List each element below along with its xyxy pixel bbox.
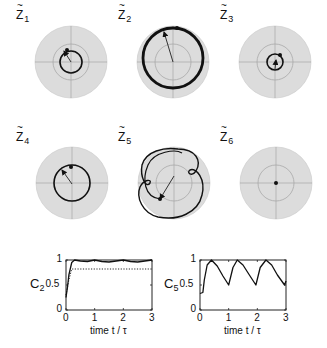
- tilde-mark: ~: [119, 122, 125, 133]
- line-chart-5: [200, 260, 286, 310]
- y-tick-label: 0.5: [46, 278, 60, 289]
- y-axis-index: 5: [173, 283, 178, 293]
- tilde-mark: ~: [17, 122, 23, 133]
- phasor-label-2: ~Z2: [118, 8, 130, 22]
- series-reference: [66, 269, 152, 295]
- phasor-index: 6: [228, 136, 233, 146]
- x-tick-label: 0: [197, 312, 203, 323]
- phasor-diagram-3: [239, 26, 311, 98]
- x-tick-label: 2: [254, 312, 260, 323]
- x-tick-label: 3: [149, 312, 155, 323]
- x-tick-label: 0: [63, 312, 69, 323]
- y-tick-label: 0: [57, 303, 63, 314]
- line-chart-2: [66, 260, 152, 310]
- y-tick-label: 1: [191, 253, 197, 264]
- x-axis-label: time t / τ: [224, 325, 261, 336]
- y-tick-label: 1: [57, 253, 63, 264]
- phasor-diagram-4: [36, 147, 108, 219]
- phasor-index: 2: [126, 14, 131, 24]
- phasor-index: 3: [228, 14, 233, 24]
- phasor-diagram-1: [35, 26, 107, 98]
- phasor-label-3: ~Z3: [220, 8, 232, 22]
- phasor-diagram-6: [240, 147, 312, 219]
- phasor-index: 4: [24, 136, 29, 146]
- phasor-diagram-2: [137, 26, 209, 98]
- phasor-diagram-5: [138, 147, 210, 219]
- phasor-label-5: ~Z5: [118, 130, 130, 144]
- phasor-index: 5: [126, 136, 131, 146]
- y-axis-symbol: C: [30, 276, 39, 291]
- x-tick-label: 3: [283, 312, 289, 323]
- phasor-index: 1: [24, 14, 29, 24]
- series-C2: [66, 260, 152, 298]
- phasor-label-4: ~Z4: [16, 130, 28, 144]
- y-axis-label: C5: [164, 276, 178, 291]
- tilde-mark: ~: [119, 0, 125, 11]
- y-axis-symbol: C: [164, 276, 173, 291]
- y-tick-label: 0: [191, 303, 197, 314]
- x-tick-label: 1: [226, 312, 232, 323]
- x-tick-label: 2: [120, 312, 126, 323]
- phasor-label-1: ~Z1: [16, 8, 28, 22]
- tilde-mark: ~: [221, 0, 227, 11]
- y-axis-label: C2: [30, 276, 44, 291]
- series-C5: [200, 260, 286, 294]
- figure-canvas: [0, 0, 327, 348]
- x-axis-label: time t / τ: [90, 325, 127, 336]
- phasor-label-6: ~Z6: [220, 130, 232, 144]
- y-tick-label: 0.5: [180, 278, 194, 289]
- tilde-mark: ~: [17, 0, 23, 11]
- x-tick-label: 1: [92, 312, 98, 323]
- y-axis-index: 2: [39, 283, 44, 293]
- tilde-mark: ~: [221, 122, 227, 133]
